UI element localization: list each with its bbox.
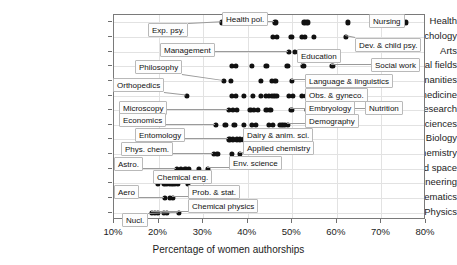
leader-line	[173, 153, 213, 154]
leader-line	[185, 138, 228, 139]
x-axis-tick-label: 60%	[316, 226, 356, 237]
callout-dairy-anim-sci: Dairy & anim. sci.	[243, 128, 313, 142]
y-axis-tick	[108, 51, 112, 52]
callout-nursing: Nursing	[369, 14, 405, 28]
callout-dev-child-psy: Dev. & child psy.	[355, 38, 421, 52]
x-axis-tick-label: 20%	[138, 226, 178, 237]
y-axis-tick	[108, 168, 112, 169]
callout-philosophy: Philosophy	[135, 60, 182, 74]
x-axis-tick-label: 10%	[93, 226, 133, 237]
data-point	[258, 78, 263, 83]
callout-nutrition: Nutrition	[365, 101, 403, 115]
callout-demography: Demography	[305, 114, 359, 128]
callout-health-pol: Health pol.	[222, 12, 268, 26]
callout-chemical-physics: Chemical physics	[188, 199, 258, 213]
data-point	[241, 122, 246, 127]
x-axis-tick-label: 70%	[360, 226, 400, 237]
x-axis-tick	[247, 219, 248, 223]
data-point	[312, 34, 317, 39]
x-axis-tick-label: 80%	[405, 226, 445, 237]
callout-language-linguistics: Language & linguistics	[305, 74, 393, 88]
leader-line	[172, 196, 188, 197]
data-point	[234, 64, 239, 69]
data-point	[275, 34, 280, 39]
callout-chemical-eng: Chemical eng.	[153, 170, 212, 184]
y-axis-tick	[108, 138, 112, 139]
data-point	[242, 93, 247, 98]
y-axis-tick	[108, 197, 112, 198]
data-point	[268, 108, 273, 113]
gridline-vertical	[248, 15, 249, 218]
data-point	[234, 108, 239, 113]
data-point	[303, 34, 308, 39]
y-axis-tick	[108, 21, 112, 22]
gridline-horizontal	[114, 198, 424, 199]
callout-nucl: Nucl.	[122, 213, 148, 227]
leader-line	[287, 123, 305, 124]
leader-line	[268, 21, 274, 22]
y-axis-tick	[108, 109, 112, 110]
x-axis-tick-label: 40%	[227, 226, 267, 237]
data-point	[228, 78, 233, 83]
callout-applied-chemistry: Applied chemistry	[243, 141, 314, 155]
callout-env-science: Env. science	[229, 156, 282, 170]
x-axis-tick	[291, 219, 292, 223]
data-point	[273, 78, 278, 83]
callout-embryology: Embryology	[305, 101, 355, 115]
x-axis-tick	[113, 219, 114, 223]
callout-obs-gyneco: Obs. & gyneco.	[305, 88, 368, 102]
x-axis-tick	[158, 219, 159, 223]
callout-exp-psy: Exp. psy.	[148, 23, 188, 37]
leader-line	[291, 79, 305, 80]
x-axis-tick	[380, 219, 381, 223]
leader-line	[139, 197, 164, 198]
x-axis-tick	[425, 219, 426, 223]
data-point	[264, 64, 269, 69]
leader-line	[207, 167, 229, 168]
data-point	[223, 122, 228, 127]
data-point	[275, 93, 280, 98]
leader-line	[166, 124, 215, 125]
data-point	[233, 93, 238, 98]
x-axis-tick	[336, 219, 337, 223]
data-point	[285, 64, 290, 69]
gridline-vertical	[292, 15, 293, 218]
leader-line	[167, 109, 228, 110]
data-point	[271, 122, 276, 127]
y-axis-tick	[108, 65, 112, 66]
x-axis-tick	[202, 219, 203, 223]
chart-root: HealthPsychologyArtsProfessional fieldsH…	[0, 0, 457, 265]
data-point	[232, 122, 237, 127]
data-point	[253, 122, 258, 127]
x-axis-title: Percentage of women authorships	[0, 244, 457, 255]
callout-social-work: Social work	[371, 58, 420, 72]
y-axis-tick	[108, 36, 112, 37]
y-axis-tick	[108, 182, 112, 183]
callout-economics: Economics	[119, 113, 166, 127]
y-axis-tick	[108, 80, 112, 81]
data-point	[255, 108, 260, 113]
callout-education: Education	[297, 49, 341, 63]
data-point	[305, 20, 310, 25]
x-axis-tick-label: 50%	[271, 226, 311, 237]
callout-aero: Aero	[114, 185, 139, 199]
y-axis-tick	[108, 153, 112, 154]
data-point	[250, 93, 255, 98]
callout-phys-chem: Phys. chem.	[121, 142, 173, 156]
data-point	[290, 93, 295, 98]
leader-line	[143, 168, 176, 169]
callout-orthopedics: Orthopedics	[113, 78, 164, 92]
callout-management: Management	[160, 43, 215, 57]
callout-astro: Astro.	[114, 157, 143, 171]
y-axis-tick	[108, 95, 112, 96]
callout-entomology: Entomology	[135, 128, 185, 142]
callout-prob-stat: Prob. & stat.	[188, 185, 240, 199]
y-axis-tick	[108, 124, 112, 125]
leader-line	[215, 51, 288, 52]
y-axis-tick	[108, 212, 112, 213]
data-point	[250, 64, 255, 69]
data-point	[215, 152, 220, 157]
x-axis-tick-label: 30%	[182, 226, 222, 237]
data-point	[345, 20, 350, 25]
